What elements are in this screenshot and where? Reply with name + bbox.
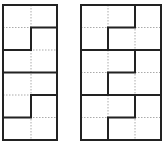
right-grid: [81, 5, 161, 140]
left-grid-bold-lines: [3, 5, 57, 140]
tiling-diagram: [0, 0, 163, 144]
left-grid: [3, 5, 57, 140]
